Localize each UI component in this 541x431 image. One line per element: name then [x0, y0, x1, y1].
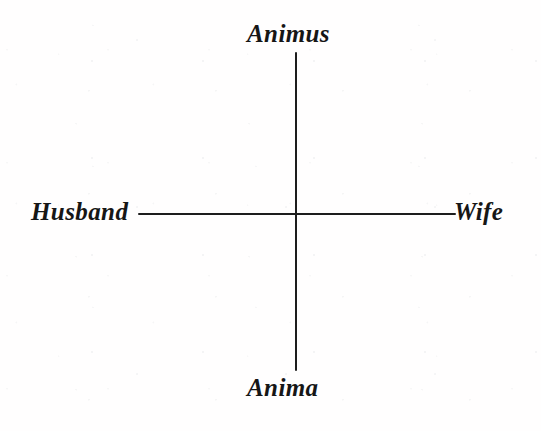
figure-canvas: Animus Anima Husband Wife	[0, 0, 541, 431]
vertical-axis-line	[295, 52, 297, 371]
axis-label-wife: Wife	[454, 199, 503, 224]
axis-label-animus: Animus	[247, 21, 330, 46]
axis-label-anima: Anima	[247, 375, 318, 400]
axis-label-husband: Husband	[31, 199, 128, 224]
horizontal-axis-line	[138, 213, 456, 215]
